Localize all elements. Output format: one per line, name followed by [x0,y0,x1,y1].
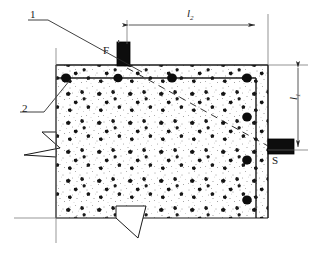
diagram-vector [0,0,322,255]
callout-label-2: 2 [22,103,28,114]
break-symbol-left [24,132,60,157]
callout-label-1: 1 [30,9,36,20]
dimension-l2-sub: 2 [190,14,194,22]
diagram-canvas: 1 2 F S l2 l1 [0,0,322,255]
break-symbol-bottom [116,206,146,238]
dimension-l1-base: l [287,97,299,100]
transmitter-label-F: F [103,45,109,56]
dimension-l1-sub: 1 [294,93,302,97]
dimension-label-l1: l1 [288,93,302,100]
receiver-block-S [268,139,294,154]
concrete-body [56,65,268,218]
receiver-label-S: S [272,155,278,166]
dimension-label-l2: l2 [187,8,194,22]
